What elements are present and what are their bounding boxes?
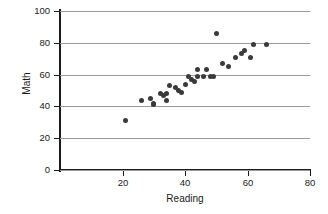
gridline-y-40 [60, 106, 310, 107]
data-point [214, 31, 219, 36]
x-tick-label-60: 60 [233, 178, 263, 188]
data-point [233, 55, 238, 60]
x-tick-label-40: 40 [170, 178, 200, 188]
data-point [139, 98, 144, 103]
data-point [226, 64, 231, 69]
data-point [123, 118, 128, 123]
x-tick-label-80: 80 [295, 178, 325, 188]
data-point [248, 55, 253, 60]
x-tick-20 [123, 171, 124, 176]
x-axis-title: Reading [60, 193, 310, 204]
data-point [201, 74, 206, 79]
data-point [164, 91, 169, 96]
gridline-y-20 [60, 138, 310, 139]
x-tick-80 [310, 171, 311, 176]
x-tick-60 [248, 171, 249, 176]
data-point [192, 79, 197, 84]
scatter-plot-figure: 020406080100 20406080 Reading Math [0, 0, 328, 214]
y-tick-label-20: 20 [26, 133, 50, 143]
y-tick-label-80: 80 [26, 38, 50, 48]
gridline-y-100 [60, 11, 310, 12]
plot-area [60, 11, 310, 170]
x-tick-label-20: 20 [108, 178, 138, 188]
data-point [164, 98, 169, 103]
data-point [220, 61, 225, 66]
data-point [251, 42, 256, 47]
x-tick-40 [185, 171, 186, 176]
data-point [195, 74, 200, 79]
data-point [179, 90, 184, 95]
y-axis-title: Math [21, 64, 32, 104]
y-tick-label-0: 0 [26, 165, 50, 175]
y-tick-label-100: 100 [26, 6, 50, 16]
data-point [204, 67, 209, 72]
data-point [167, 83, 172, 88]
data-point [183, 82, 188, 87]
data-point [211, 74, 216, 79]
data-point [195, 67, 200, 72]
gridline-y-80 [60, 43, 310, 44]
data-point [264, 42, 269, 47]
data-point [242, 48, 247, 53]
